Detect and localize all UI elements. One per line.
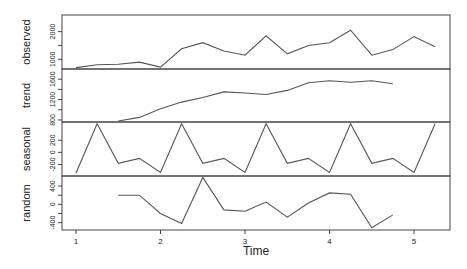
y-tick-label: 1600 (49, 71, 56, 87)
decomposition-chart: 10002000observed80012001600trend-2000200… (0, 0, 467, 269)
y-tick-label: 400 (49, 180, 56, 192)
panel-random: -4000400random (20, 176, 450, 230)
panel-observed: 10002000observed (20, 15, 450, 69)
x-tick-label: 2 (158, 237, 163, 246)
x-tick-label: 1 (74, 237, 79, 246)
series-seasonal (76, 124, 435, 173)
series-observed (76, 30, 435, 67)
y-tick-label: 2000 (49, 24, 56, 40)
y-tick-label: 800 (49, 114, 56, 126)
x-tick-label: 4 (327, 237, 332, 246)
y-tick-label: 0 (49, 202, 56, 206)
series-random (118, 177, 393, 227)
y-tick-label: 1000 (49, 51, 56, 67)
x-axis-title: Time (243, 244, 270, 258)
y-tick-label: 200 (49, 134, 56, 146)
panel-label-trend: trend (20, 83, 32, 108)
series-trend (118, 81, 393, 121)
y-tick-label: -200 (49, 157, 56, 171)
y-tick-label: -400 (49, 216, 56, 230)
x-tick-label: 5 (412, 237, 417, 246)
panel-seasonal: -2000200seasonal (20, 122, 450, 176)
panel-label-seasonal: seasonal (20, 127, 32, 171)
panel-label-random: random (20, 184, 32, 221)
chart-panels: 10002000observed80012001600trend-2000200… (20, 15, 450, 230)
panel-trend: 80012001600trend (20, 69, 450, 126)
y-tick-label: 1200 (49, 92, 56, 108)
panel-label-observed: observed (20, 19, 32, 64)
y-tick-label: 0 (49, 150, 56, 154)
